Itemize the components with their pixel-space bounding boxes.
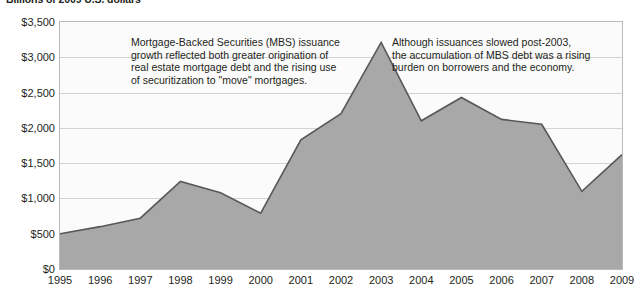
x-tick-label: 2004 — [409, 274, 433, 287]
x-tick-label: 2006 — [489, 274, 513, 287]
y-tick-label: $2,000 — [0, 123, 55, 134]
y-tick-label: $500 — [0, 229, 55, 240]
x-tick-label: 2007 — [529, 274, 553, 287]
x-tick-label: 1999 — [208, 274, 232, 287]
annotation-mbs-burden: Although issuances slowed post-2003, the… — [392, 36, 590, 74]
y-tick-label: $0 — [0, 264, 55, 275]
x-tick-label: 2009 — [610, 274, 634, 287]
y-tick-label: $1,500 — [0, 158, 55, 169]
x-tick-label: 1997 — [128, 274, 152, 287]
y-tick-label: $2,500 — [0, 88, 55, 99]
y-tick-label: $3,000 — [0, 52, 55, 63]
x-tick-label: 2002 — [329, 274, 353, 287]
x-tick-label: 2001 — [289, 274, 313, 287]
y-tick-label: $3,500 — [0, 17, 55, 28]
x-tick-label: 1995 — [48, 274, 72, 287]
y-axis: $0$500$1,000$1,500$2,000$2,500$3,000$3,5… — [0, 21, 55, 270]
x-tick-label: 2000 — [248, 274, 272, 287]
x-tick-label: 1998 — [168, 274, 192, 287]
chart-title: Billions of 2009 U.S. dollars — [6, 0, 141, 5]
x-axis: 1995199619971998199920002001200220032004… — [59, 274, 623, 290]
annotation-mbs-growth: Mortgage-Backed Securities (MBS) issuanc… — [131, 36, 340, 86]
x-tick-label: 2003 — [369, 274, 393, 287]
x-tick-label: 1996 — [88, 274, 112, 287]
x-tick-label: 2008 — [570, 274, 594, 287]
x-tick-label: 2005 — [449, 274, 473, 287]
y-tick-label: $1,000 — [0, 193, 55, 204]
